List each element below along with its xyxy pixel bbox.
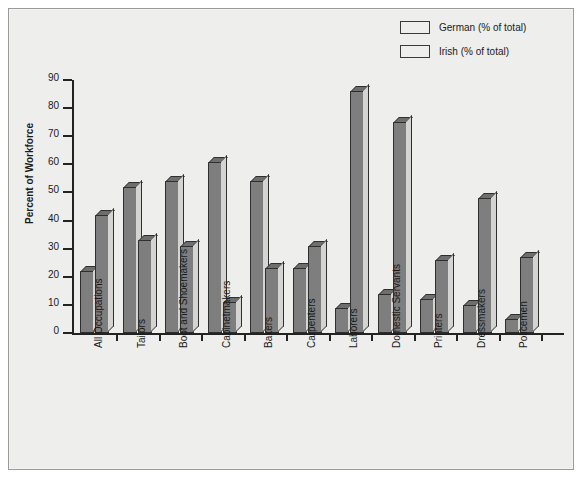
bar-german <box>250 181 264 333</box>
x-tick-2 <box>201 333 203 341</box>
chart-legend: German (% of total) Irish (% of total) <box>400 18 568 66</box>
bar-german <box>123 187 137 333</box>
x-tick-0 <box>116 333 118 341</box>
y-tick-label-0: 0 <box>53 325 59 336</box>
bar-side-face <box>363 84 369 332</box>
legend-swatch-irish <box>400 45 430 58</box>
bar-side-face <box>321 239 327 332</box>
x-tick-1 <box>159 333 161 341</box>
x-label-tailors: Tailors <box>136 319 147 348</box>
y-tick-70: 70 <box>63 135 72 137</box>
x-label-printers: Printers <box>433 314 444 348</box>
x-label-bakers: Bakers <box>263 317 274 348</box>
y-tick-50: 50 <box>63 191 72 193</box>
y-axis-line <box>72 80 74 335</box>
y-tick-label-80: 80 <box>48 100 59 111</box>
x-label-domestic-servants: Domestic Servants <box>391 264 402 348</box>
bar-side-face <box>448 253 454 332</box>
y-tick-label-10: 10 <box>48 297 59 308</box>
y-tick-40: 40 <box>63 220 72 222</box>
bar-side-face <box>236 295 242 332</box>
x-label-dressmakers: Dressmakers <box>476 289 487 348</box>
y-tick-30: 30 <box>63 248 72 250</box>
x-tick-4 <box>286 333 288 341</box>
x-label-carpenters: Carpenters <box>306 299 317 348</box>
x-tick-9 <box>499 333 501 341</box>
y-axis-title: Percent of Workforce <box>24 114 35 234</box>
legend-item-german: German (% of total) <box>400 18 568 37</box>
legend-label-irish: Irish (% of total) <box>439 46 509 57</box>
bar-german <box>165 181 179 333</box>
bar-german <box>420 299 434 333</box>
x-tick-6 <box>371 333 373 341</box>
legend-swatch-german <box>400 21 430 34</box>
x-label-laborers: Laborers <box>348 309 359 348</box>
y-tick-label-40: 40 <box>48 213 59 224</box>
y-tick-10: 10 <box>63 304 72 306</box>
bar-german <box>208 162 222 333</box>
bar-side-face <box>193 239 199 332</box>
bar-side-face <box>108 208 114 332</box>
bar-german <box>80 271 94 333</box>
y-tick-0: 0 <box>63 332 72 334</box>
bar-german <box>505 319 519 333</box>
x-label-policemen: Policemen <box>518 301 529 348</box>
y-tick-label-30: 30 <box>48 241 59 252</box>
bar-german <box>335 308 349 333</box>
bar-german <box>463 305 477 333</box>
x-tick-3 <box>244 333 246 341</box>
y-tick-label-70: 70 <box>48 128 59 139</box>
plot-area: 0102030405060708090 All OccupationsTailo… <box>72 80 562 333</box>
x-label-boot-and-shoemakers: Boot and Shoemakers <box>178 249 189 348</box>
x-tick-5 <box>329 333 331 341</box>
legend-item-irish: Irish (% of total) <box>400 42 568 61</box>
x-label-cabinetmakers: Cabinetmakers <box>221 281 232 348</box>
y-tick-60: 60 <box>63 163 72 165</box>
bar-side-face <box>533 250 539 332</box>
bar-german <box>378 294 392 333</box>
x-tick-8 <box>456 333 458 341</box>
y-tick-20: 20 <box>63 276 72 278</box>
y-tick-label-60: 60 <box>48 156 59 167</box>
bar-side-face <box>151 233 157 332</box>
bar-side-face <box>406 115 412 332</box>
x-tick-10 <box>541 333 543 341</box>
bar-irish <box>350 91 364 333</box>
bar-side-face <box>278 261 284 332</box>
y-tick-label-50: 50 <box>48 184 59 195</box>
screenshot-root: German (% of total) Irish (% of total) P… <box>0 0 585 482</box>
bar-side-face <box>491 191 497 332</box>
y-tick-90: 90 <box>63 79 72 81</box>
y-tick-80: 80 <box>63 107 72 109</box>
x-label-all-occupations: All Occupations <box>93 279 104 348</box>
y-tick-label-90: 90 <box>48 72 59 83</box>
bar-german <box>293 268 307 333</box>
bar-chart: German (% of total) Irish (% of total) P… <box>0 0 585 482</box>
legend-label-german: German (% of total) <box>439 22 526 33</box>
x-tick-7 <box>414 333 416 341</box>
y-tick-label-20: 20 <box>48 269 59 280</box>
